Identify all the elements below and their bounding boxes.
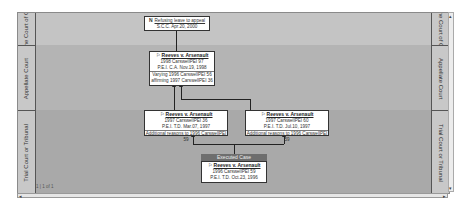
lane-labels-left: Supreme Court of Canada Appellate Court … (18, 13, 36, 193)
scroll-up-arrow-icon[interactable]: ▴ (449, 13, 452, 19)
lane-label-appellate: Appellate Court (18, 45, 35, 111)
node-trial-right[interactable]: ⚐Reeves v. Arsenault 1997 CarswellPEI 60… (245, 110, 329, 136)
red-flag-icon: N (149, 17, 153, 23)
node-appeal[interactable]: ⚐Reeves v. Arsenault 1998 CarswellPEI 97… (149, 51, 215, 86)
executed-case-header: Executed Case (201, 154, 267, 161)
lane-label-trial: Trial Court or Tribunal (18, 110, 35, 194)
lane-appellate-court (18, 45, 449, 110)
lane-label-supreme: Supreme Court of Canada (18, 13, 35, 45)
node-scc-refusing-leave[interactable]: NRefusing leave to appeal S.C.C. Apr.20,… (144, 16, 210, 31)
node-trial-left[interactable]: ⚐Reeves v. Arsenault 1997 CarswellPEI 36… (144, 110, 228, 136)
flag-icon: ⚐ (261, 111, 265, 117)
connector-appeal-to-scc (176, 30, 177, 53)
connector-trial-right-to-appeal-h (181, 99, 250, 100)
scroll-down-arrow-icon[interactable]: ▾ (449, 185, 452, 191)
connector-exec-h (193, 144, 284, 145)
node-executed-case[interactable]: ⚐Reeves v. Arsenault 1996 CarswellPEI 59… (201, 161, 267, 183)
vertical-scrollbar[interactable]: ▴ ▾ (448, 12, 454, 192)
lane-label-trial-right: Trial Court or Tribunal (432, 110, 449, 194)
scroll-left-arrow-icon[interactable]: ◂ (19, 193, 22, 199)
flag-icon: ⚐ (160, 111, 164, 117)
flag-icon: ⚐ (156, 52, 160, 58)
lane-label-supreme-right: Supreme Court of Canada (432, 13, 449, 45)
lane-supreme-court (18, 13, 449, 45)
scroll-right-arrow-icon[interactable]: ▸ (443, 193, 446, 199)
connector-trial-right-to-appeal-v (181, 85, 182, 99)
horizontal-scrollbar[interactable]: ◂ ▸ (17, 193, 448, 198)
flag-icon: ⚐ (208, 162, 212, 168)
connector-exec-v (234, 144, 235, 154)
lane-labels-right: Supreme Court of Canada Appellate Court … (431, 13, 449, 193)
lane-label-appellate-right: Appellate Court (432, 45, 449, 111)
history-diagram-canvas: Supreme Court of Canada Appellate Court … (17, 12, 450, 194)
status-text: 1 | 1 of 1 (36, 184, 53, 189)
